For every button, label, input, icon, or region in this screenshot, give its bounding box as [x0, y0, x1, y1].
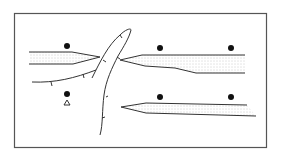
- dot-lower-right: [228, 94, 234, 100]
- diagram-frame: [15, 14, 267, 148]
- diagram-canvas: [0, 0, 281, 161]
- dot-upper-mid: [157, 45, 163, 51]
- dot-lower-left: [64, 91, 70, 97]
- dot-lower-mid: [157, 94, 163, 100]
- lower-right-slab: [121, 103, 256, 116]
- triangle-marker-icon: [64, 100, 70, 105]
- dot-upper-right: [228, 45, 234, 51]
- lower-left-arc: [32, 70, 96, 86]
- upper-left-slab: [29, 52, 100, 64]
- central-hook-curve: [92, 29, 131, 135]
- upper-right-slab: [120, 55, 245, 73]
- dot-upper-left: [64, 43, 70, 49]
